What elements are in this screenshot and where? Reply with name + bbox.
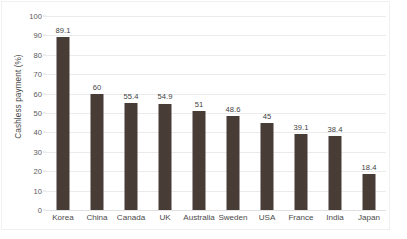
- y-axis-tick-label: 20: [22, 167, 42, 176]
- x-axis-label-india: India: [326, 213, 344, 222]
- x-axis-label-usa: USA: [259, 213, 276, 222]
- bar-value-label: 39.1: [294, 123, 309, 132]
- bar[interactable]: [91, 94, 104, 210]
- y-axis-tick-label: 30: [22, 147, 42, 156]
- x-axis-label-france: France: [288, 213, 313, 222]
- axis-baseline: [46, 210, 386, 211]
- bar-group[interactable]: 45: [250, 16, 284, 210]
- bar[interactable]: [125, 103, 138, 210]
- x-axis-label-korea: Korea: [52, 213, 74, 222]
- bar[interactable]: [261, 123, 274, 210]
- x-axis-label-canada: Canada: [117, 213, 145, 222]
- y-axis-tick-label: 60: [22, 89, 42, 98]
- bar-series: 89.16055.454.95148.64539.138.418.4: [46, 16, 386, 210]
- bar-chart: Cashless payment (%) 1009080706050403020…: [0, 0, 407, 239]
- bar-group[interactable]: 48.6: [216, 16, 250, 210]
- bar[interactable]: [193, 111, 206, 210]
- x-axis-label-china: China: [86, 213, 107, 222]
- y-axis-tick-label: 40: [22, 128, 42, 137]
- bar[interactable]: [57, 37, 70, 210]
- bar-value-label: 89.1: [56, 26, 71, 35]
- x-axis-label-japan: Japan: [358, 213, 380, 222]
- bar[interactable]: [159, 104, 172, 211]
- bar-value-label: 38.4: [328, 125, 343, 134]
- y-axis-tick-label: 50: [22, 109, 42, 118]
- y-axis-tick-label: 70: [22, 70, 42, 79]
- bar-value-label: 51: [195, 100, 203, 109]
- bar-group[interactable]: 51: [182, 16, 216, 210]
- x-axis-label-sweden: Sweden: [218, 213, 247, 222]
- bar[interactable]: [295, 134, 308, 210]
- bar-group[interactable]: 39.1: [284, 16, 318, 210]
- bar-value-label: 45: [263, 112, 271, 121]
- y-axis-tick-label: 90: [22, 31, 42, 40]
- bar-group[interactable]: 55.4: [114, 16, 148, 210]
- bar-value-label: 18.4: [362, 163, 377, 172]
- y-axis-tick-labels: 1009080706050403020100: [22, 16, 42, 210]
- bar-group[interactable]: 60: [80, 16, 114, 210]
- x-axis-label-uk: UK: [159, 213, 170, 222]
- bar-group[interactable]: 54.9: [148, 16, 182, 210]
- x-axis-label-australia: Australia: [183, 213, 215, 222]
- bar[interactable]: [227, 116, 240, 210]
- bar-group[interactable]: 38.4: [318, 16, 352, 210]
- bar-value-label: 48.6: [226, 105, 241, 114]
- x-axis-category-labels: KoreaChinaCanadaUKAustraliaSwedenUSAFran…: [46, 213, 386, 229]
- y-axis-tick-label: 10: [22, 186, 42, 195]
- bar-value-label: 55.4: [124, 92, 139, 101]
- bar-group[interactable]: 89.1: [46, 16, 80, 210]
- y-axis-tick-label: 100: [22, 12, 42, 21]
- y-axis-tick-label: 0: [22, 206, 42, 215]
- bar[interactable]: [329, 136, 342, 210]
- plot-area: 89.16055.454.95148.64539.138.418.4: [46, 16, 386, 210]
- bar[interactable]: [363, 174, 376, 210]
- bar-group[interactable]: 18.4: [352, 16, 386, 210]
- bar-value-label: 60: [93, 83, 101, 92]
- y-axis-tick-label: 80: [22, 50, 42, 59]
- bar-value-label: 54.9: [158, 92, 173, 101]
